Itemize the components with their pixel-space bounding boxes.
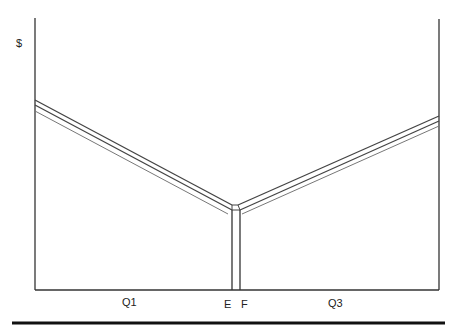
- y-axis-label: $: [16, 37, 22, 49]
- diagram-canvas: [0, 0, 460, 332]
- apex-joint: [232, 205, 240, 210]
- x-label-q3: Q3: [328, 297, 343, 309]
- x-label-e: E: [224, 298, 231, 310]
- right-ascending-lines: [238, 116, 439, 214]
- left-descending-lines: [35, 100, 232, 214]
- x-label-q1: Q1: [122, 296, 137, 308]
- x-label-f: F: [241, 298, 248, 310]
